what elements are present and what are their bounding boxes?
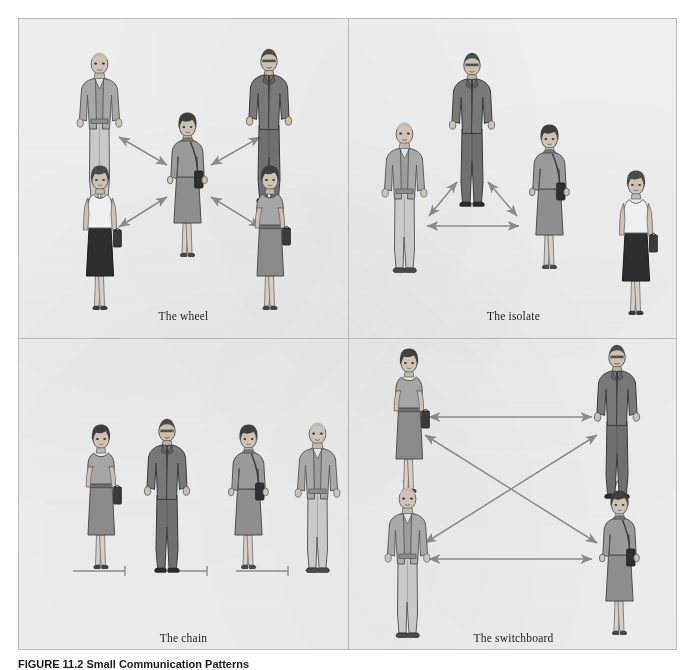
- panel-wheel: The wheel: [19, 19, 348, 338]
- figure-caption-text: Small Communication Patterns: [86, 658, 249, 670]
- person-chain-2: [142, 417, 192, 575]
- panel-chain: The chain: [19, 339, 348, 650]
- person-wheel-lower-left: [76, 164, 124, 314]
- panel-divider-vertical: [348, 19, 349, 650]
- person-isolate-left: [379, 119, 430, 275]
- panel-caption-switchboard: The switchboard: [349, 632, 677, 644]
- person-switchboard-bottom-left: [382, 484, 433, 640]
- person-isolate-isolated: [612, 169, 660, 319]
- panel-switchboard: The switchboard: [349, 339, 677, 650]
- figure-caption: FIGURE 11.2 Small Communication Patterns: [18, 658, 658, 670]
- person-switchboard-bottom-right: [595, 489, 639, 637]
- link-center-to-lower-left: [119, 197, 167, 227]
- chain-stage: [19, 339, 348, 650]
- figure-root: The wheel: [0, 0, 698, 670]
- panel-caption-chain: The chain: [19, 632, 348, 644]
- person-chain-1: [77, 423, 123, 573]
- figure-caption-number: FIGURE 11.2: [18, 658, 83, 670]
- switchboard-stage: [349, 339, 677, 650]
- person-isolate-right: [525, 123, 569, 271]
- person-chain-4: [292, 419, 343, 575]
- isolate-stage: [349, 19, 677, 338]
- person-wheel-lower-right: [246, 164, 292, 314]
- link-center-to-upper-left: [119, 137, 167, 165]
- figure-plate: The wheel: [18, 18, 677, 650]
- panel-caption-wheel: The wheel: [19, 310, 348, 322]
- person-isolate-top-center: [447, 51, 497, 209]
- person-chain-3: [224, 423, 268, 571]
- person-switchboard-top-left: [385, 347, 431, 497]
- wheel-stage: [19, 19, 348, 338]
- person-switchboard-top-right: [592, 343, 642, 501]
- panel-isolate: The isolate: [349, 19, 677, 338]
- panel-divider-horizontal: [19, 338, 677, 339]
- person-wheel-center: [163, 111, 207, 259]
- panel-caption-isolate: The isolate: [349, 310, 677, 322]
